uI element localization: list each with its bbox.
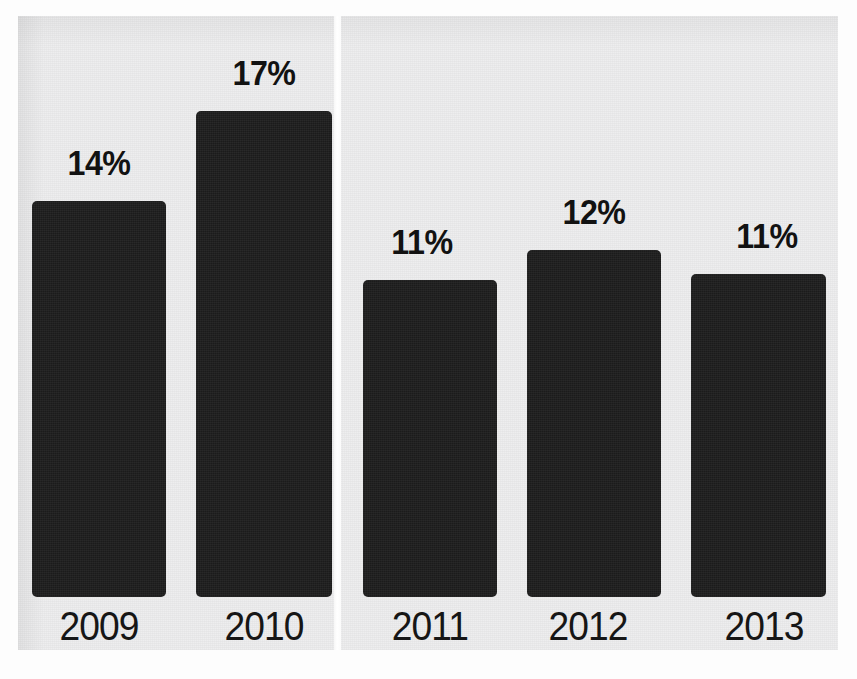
bar-2009	[32, 201, 166, 597]
category-label-2012: 2012	[526, 604, 651, 649]
scan-gutter-seam	[334, 16, 341, 650]
bar-2010	[196, 111, 332, 597]
category-label-2009: 2009	[37, 604, 162, 649]
value-label-2013: 11%	[705, 216, 828, 256]
category-label-2013: 2013	[702, 604, 827, 649]
value-label-2011: 11%	[360, 222, 483, 262]
value-label-2009: 14%	[37, 143, 160, 183]
bar-chart-screenshot: 14% 2009 17% 2010 11% 2011 12% 2012 11% …	[0, 0, 857, 679]
value-label-2012: 12%	[532, 192, 655, 232]
bar-2013	[691, 274, 826, 597]
category-label-2010: 2010	[201, 604, 327, 649]
bar-2012	[527, 250, 661, 597]
value-label-2010: 17%	[201, 53, 326, 93]
bar-2011	[363, 280, 497, 597]
plot-area: 14% 2009 17% 2010 11% 2011 12% 2012 11% …	[0, 0, 857, 679]
category-label-2011: 2011	[368, 604, 493, 649]
